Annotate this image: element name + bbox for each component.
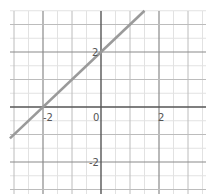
x-tick-label: -2 — [43, 112, 53, 123]
y-tick-label: -2 — [89, 157, 99, 168]
minor-grid — [10, 11, 206, 194]
x-tick-label: 0 — [93, 112, 99, 123]
function-line-segment — [10, 11, 145, 139]
function-line — [10, 11, 145, 139]
x-tick-label: 2 — [158, 112, 164, 123]
y-tick-label: 2 — [92, 47, 98, 58]
coordinate-plane: -2022-2 — [0, 0, 208, 194]
